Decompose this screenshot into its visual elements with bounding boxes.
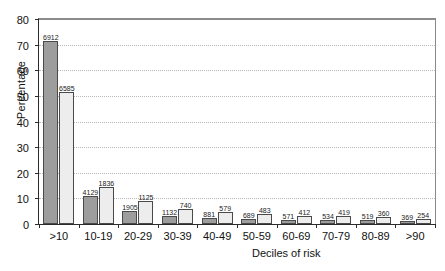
bar: 412 [297, 216, 312, 224]
bar-value-label: 6585 [59, 85, 75, 92]
bar: 6585 [59, 92, 74, 224]
x-axis-tick-label: 50-59 [243, 231, 271, 242]
bar: 419 [336, 216, 351, 224]
bar-value-label: 1905 [122, 204, 138, 211]
x-axis-tick [118, 224, 119, 228]
x-axis-tick [395, 224, 396, 228]
bar: 1132 [162, 216, 177, 224]
y-axis-tick-label: 0 [23, 220, 29, 231]
x-axis-tick-label: 80-89 [362, 231, 390, 242]
x-axis-tick [316, 224, 317, 228]
bar: 6912 [43, 41, 58, 224]
bar: 4129 [83, 196, 98, 224]
x-axis-title: Deciles of risk [252, 248, 320, 259]
x-axis-tick-label: 10-19 [84, 231, 112, 242]
bar-group: 534419 [316, 19, 356, 224]
bar: 534 [320, 220, 335, 224]
bar: 579 [218, 212, 233, 224]
bar-value-label: 1836 [99, 180, 115, 187]
bar: 689 [241, 219, 256, 224]
bar: 1125 [138, 201, 153, 224]
bar-value-label: 360 [378, 210, 390, 217]
bar-value-label: 881 [203, 211, 215, 218]
bar: 571 [281, 220, 296, 224]
x-axis-tick-label: 60-69 [282, 231, 310, 242]
bar: 483 [257, 214, 272, 224]
bar-group: 881579 [197, 19, 237, 224]
bar: 369 [400, 221, 415, 224]
x-axis-tick [237, 224, 238, 228]
bar-group: 1132740 [158, 19, 198, 224]
y-axis-tick-label: 70 [17, 40, 29, 51]
bar-value-label: 4129 [83, 189, 99, 196]
bar-value-label: 1132 [162, 209, 177, 216]
x-axis-tick [158, 224, 159, 228]
x-axis-tick-label: 20-29 [124, 231, 152, 242]
bar-value-label: 1125 [138, 194, 153, 201]
bar-value-label: 6912 [43, 34, 59, 41]
bar-value-label: 519 [362, 213, 374, 220]
x-axis-tick-label: >90 [406, 231, 425, 242]
x-axis-tick [39, 224, 40, 228]
plot-area: 01020304050607080 6912658541291836190511… [38, 18, 436, 225]
x-axis-tick [197, 224, 198, 228]
y-axis-tick-label: 30 [17, 143, 29, 154]
x-axis-tick [435, 224, 436, 228]
y-axis-tick-label: 40 [17, 117, 29, 128]
y-axis-tick-label: 10 [17, 194, 29, 205]
bar-value-label: 483 [259, 207, 271, 214]
bar-value-label: 579 [219, 205, 231, 212]
bar-group: 689483 [237, 19, 277, 224]
bar: 1905 [122, 211, 137, 224]
y-axis-tick-label: 50 [17, 91, 29, 102]
bar-chart: Percentage 01020304050607080 69126585412… [0, 0, 445, 271]
x-axis-tick [79, 224, 80, 228]
bar-value-label: 254 [417, 212, 429, 219]
bar-value-label: 571 [283, 213, 295, 220]
bar: 360 [376, 217, 391, 224]
bar-group: 571412 [277, 19, 317, 224]
bar-value-label: 740 [180, 202, 192, 209]
bar-group: 519360 [356, 19, 396, 224]
bar: 1836 [99, 187, 114, 224]
bars-layer: 6912658541291836190511251132740881579689… [39, 19, 435, 224]
bar-group: 69126585 [39, 19, 79, 224]
bar-value-label: 534 [322, 213, 334, 220]
bar: 254 [416, 219, 431, 224]
bar: 519 [360, 220, 375, 224]
bar-group: 19051125 [118, 19, 158, 224]
x-axis-tick [277, 224, 278, 228]
bar-value-label: 689 [243, 212, 255, 219]
x-axis-tick-label: 70-79 [322, 231, 350, 242]
x-axis-tick-label: >10 [49, 231, 68, 242]
bar: 740 [178, 209, 193, 224]
y-axis-tick-label: 80 [17, 15, 29, 26]
bar-value-label: 412 [299, 209, 311, 216]
x-axis-tick-label: 30-39 [164, 231, 192, 242]
x-axis-tick-label: 40-49 [203, 231, 231, 242]
bar-value-label: 419 [338, 209, 350, 216]
bar-group: 41291836 [79, 19, 119, 224]
y-axis-tick-label: 20 [17, 168, 29, 179]
bar: 881 [202, 218, 217, 224]
bar-value-label: 369 [401, 214, 413, 221]
y-axis-tick-label: 60 [17, 66, 29, 77]
bar-group: 369254 [395, 19, 435, 224]
x-axis-tick [356, 224, 357, 228]
